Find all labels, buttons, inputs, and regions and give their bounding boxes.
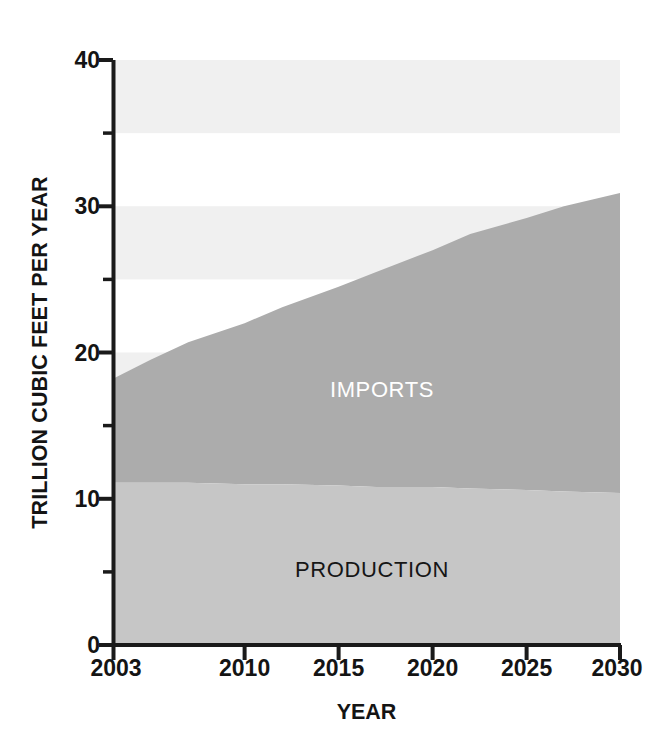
area-chart-canvas (0, 0, 670, 737)
x-tick-label-2025: 2025 (501, 655, 552, 682)
x-tick-label-2020: 2020 (407, 655, 458, 682)
x-axis-title: YEAR (113, 700, 620, 725)
chart-figure: 40 30 20 10 0 2003 2010 2015 2020 2025 2… (0, 0, 670, 737)
y-axis-major-ticks (99, 60, 113, 645)
series-label-imports: IMPORTS (330, 377, 434, 403)
y-axis-title: TRILLION CUBIC FEET PER YEAR (20, 60, 60, 645)
series-label-production: PRODUCTION (295, 557, 449, 583)
x-tick-label-2003: 2003 (90, 655, 141, 682)
band-35-40 (113, 60, 620, 133)
x-tick-label-2015: 2015 (313, 655, 364, 682)
x-tick-label-2010: 2010 (219, 655, 270, 682)
x-tick-label-2030: 2030 (591, 655, 642, 682)
